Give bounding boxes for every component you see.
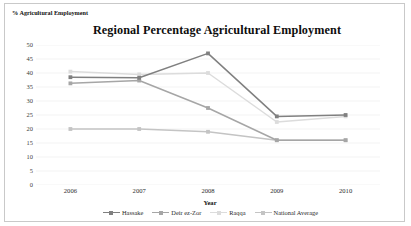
- x-axis-title: Year: [160, 199, 260, 206]
- legend-label-deir-ez-zor: Deir ez-Zor: [171, 209, 201, 216]
- legend-label-raqqa: Raqqa: [229, 209, 245, 216]
- data-point-raqqa-2008: [206, 71, 210, 75]
- y-axis-tick-20: 20: [11, 126, 33, 132]
- data-point-hassake-2009: [275, 115, 279, 119]
- data-point-deir-ez-zor-2006: [69, 81, 73, 85]
- y-axis-tick-30: 30: [11, 98, 33, 104]
- data-point-raqqa-2006: [69, 70, 73, 74]
- y-axis-tick-50: 50: [11, 42, 33, 48]
- y-axis-tick-45: 45: [11, 56, 33, 62]
- data-point-hassake-2007: [137, 76, 141, 80]
- x-axis-tick-2008: 2008: [183, 188, 233, 195]
- legend-item-deir-ez-zor[interactable]: Deir ez-Zor: [152, 209, 201, 216]
- legend-label-national-average: National Average: [274, 209, 318, 216]
- y-axis-tick-35: 35: [11, 84, 33, 90]
- legend-swatch-hassake: [103, 210, 120, 216]
- legend-item-hassake[interactable]: Hassake: [103, 209, 143, 216]
- data-point-hassake-2008: [206, 52, 210, 56]
- series-lines: [36, 45, 380, 185]
- chart-title: Regional Percentage Agricultural Employm…: [67, 23, 367, 38]
- data-point-hassake-2010: [344, 113, 348, 117]
- data-point-national-average-2008: [206, 130, 210, 134]
- x-axis-tick-2006: 2006: [45, 188, 95, 195]
- data-point-raqqa-2007: [137, 73, 141, 77]
- x-axis-tick-2009: 2009: [252, 188, 302, 195]
- data-point-deir-ez-zor-2009: [275, 138, 279, 142]
- y-axis-title: % Agricultural Employment: [11, 9, 89, 17]
- series-line-raqqa: [70, 72, 345, 122]
- chart-legend: HassakeDeir ez-ZorRaqqaNational Average: [5, 209, 411, 216]
- legend-swatch-deir-ez-zor: [152, 210, 169, 216]
- legend-swatch-raqqa: [210, 210, 227, 216]
- legend-item-national-average[interactable]: National Average: [255, 209, 318, 216]
- data-point-national-average-2006: [69, 127, 73, 131]
- legend-label-hassake: Hassake: [122, 209, 143, 216]
- data-point-deir-ez-zor-2010: [344, 138, 348, 142]
- legend-swatch-national-average: [255, 210, 272, 216]
- legend-item-raqqa[interactable]: Raqqa: [210, 209, 245, 216]
- chart-container: % Agricultural Employment Regional Perce…: [4, 3, 405, 222]
- data-point-deir-ez-zor-2008: [206, 106, 210, 110]
- data-point-hassake-2006: [69, 75, 73, 79]
- x-axis-tick-2010: 2010: [321, 188, 371, 195]
- y-axis-tick-0: 0: [11, 182, 33, 188]
- y-axis-tick-5: 5: [11, 168, 33, 174]
- y-axis-tick-25: 25: [11, 112, 33, 118]
- plot-area: [36, 45, 380, 185]
- data-point-national-average-2007: [137, 127, 141, 131]
- x-axis-tick-2007: 2007: [114, 188, 164, 195]
- y-axis-tick-10: 10: [11, 154, 33, 160]
- y-axis-tick-40: 40: [11, 70, 33, 76]
- data-point-raqqa-2009: [275, 120, 279, 124]
- y-axis-tick-15: 15: [11, 140, 33, 146]
